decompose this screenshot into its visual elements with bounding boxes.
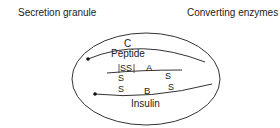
insulin-label: Insulin <box>131 98 160 109</box>
left-disulfide-upper-s: S <box>118 73 124 83</box>
left-disulfide-lower-s: S <box>118 84 124 94</box>
granule-membrane <box>72 33 220 125</box>
c-peptide-n-terminus-dot <box>86 57 90 61</box>
intra-disulfide-label: SS <box>120 63 132 73</box>
right-disulfide-upper-s: S <box>165 71 171 81</box>
right-disulfide-lower-s: S <box>168 82 174 92</box>
b-chain-label: B <box>144 85 150 96</box>
proinsulin-granule-diagram: C Peptide SS A S S S S B Insulin <box>0 0 280 128</box>
b-chain-n-terminus-dot <box>93 92 97 96</box>
c-peptide-chain <box>88 49 205 62</box>
peptide-label: Peptide <box>111 48 145 59</box>
b-chain <box>95 84 212 96</box>
a-chain-label: A <box>146 62 153 73</box>
